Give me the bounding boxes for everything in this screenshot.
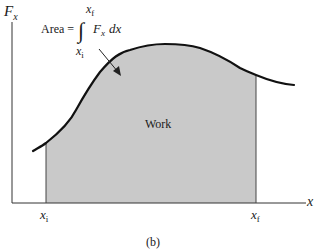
work-label: Work — [145, 117, 171, 131]
lower-limit: xi — [75, 44, 84, 60]
integral-sign: ∫ — [76, 18, 86, 44]
x-initial-label: xi — [39, 207, 49, 224]
y-axis-label: Fx — [3, 3, 18, 22]
work-area-diagram: Fx x xi xf Work Area = ∫ xf xi Fxdx (b) — [0, 0, 317, 252]
equation-lhs: Area = — [41, 22, 74, 36]
area-equation: Area = ∫ xf xi Fxdx — [41, 2, 121, 60]
figure-caption: (b) — [146, 235, 160, 249]
upper-limit: xf — [85, 2, 94, 18]
integrand: Fxdx — [92, 21, 121, 38]
x-axis-label: x — [306, 194, 314, 209]
x-final-label: xf — [250, 207, 260, 224]
